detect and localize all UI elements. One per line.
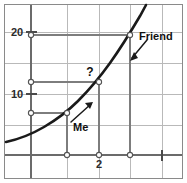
friend-point-marker: [127, 32, 132, 37]
y-tick-label-10: 10: [11, 88, 23, 100]
me-x-axis-marker: [64, 152, 69, 157]
friend-y-axis-marker: [28, 32, 33, 37]
unknown-x-axis-marker: [96, 152, 101, 157]
friend-label: Friend: [139, 30, 173, 42]
chart-canvas: 20 10 2 Friend Me ?: [0, 0, 187, 183]
y-tick-label-20: 20: [11, 26, 23, 38]
exponential-growth-chart: 20 10 2 Friend Me ?: [0, 0, 187, 183]
x-tick-label-2: 2: [96, 158, 102, 170]
unknown-point-marker: [96, 79, 101, 84]
me-point-marker: [64, 110, 69, 115]
friend-x-axis-marker: [127, 152, 132, 157]
unknown-label: ?: [86, 65, 93, 79]
me-label: Me: [73, 121, 88, 133]
unknown-y-axis-marker: [28, 79, 33, 84]
me-y-axis-marker: [28, 110, 33, 115]
